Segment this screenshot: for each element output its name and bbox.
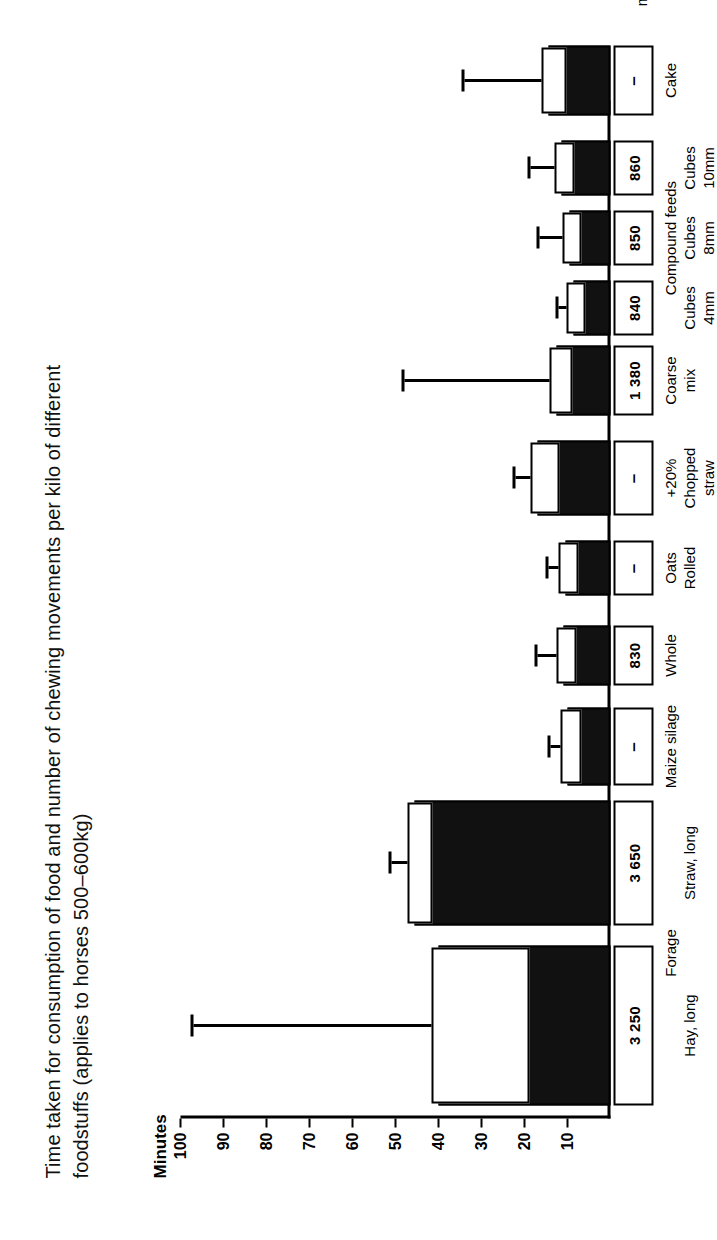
y-axis-tick bbox=[480, 1118, 482, 1127]
chewing-movement-value: 3 650 bbox=[613, 800, 653, 925]
error-whisker-cap bbox=[388, 852, 391, 874]
y-axis-tick-label: 40 bbox=[430, 1132, 446, 1150]
bar-group bbox=[180, 800, 610, 925]
error-whisker-cap bbox=[536, 227, 539, 249]
y-axis-tick-label: 50 bbox=[387, 1132, 403, 1150]
chewing-movement-value: 860 bbox=[613, 140, 653, 195]
error-whisker-cap bbox=[190, 1014, 193, 1036]
error-whisker-cap bbox=[534, 644, 537, 666]
bar-group bbox=[180, 945, 610, 1105]
range-window bbox=[558, 542, 579, 593]
y-axis-tick bbox=[308, 1118, 310, 1127]
chewing-movement-value: – bbox=[613, 440, 653, 515]
error-whisker bbox=[404, 379, 565, 382]
chewing-movement-value: 850 bbox=[613, 210, 653, 265]
bar bbox=[561, 140, 610, 195]
y-axis-tick bbox=[179, 1118, 181, 1127]
y-axis-tick-label: 80 bbox=[258, 1132, 274, 1150]
y-axis-tick bbox=[351, 1118, 353, 1127]
bar bbox=[537, 440, 610, 515]
plot-area: 100908070605040302010 bbox=[180, 100, 610, 1118]
category-label: Cake bbox=[660, 15, 679, 145]
group-label: Forage bbox=[660, 800, 679, 1105]
chewing-movement-value: – bbox=[613, 707, 653, 785]
y-axis-tick bbox=[566, 1118, 568, 1127]
bar bbox=[414, 800, 610, 925]
range-window bbox=[560, 709, 581, 783]
category-label-line: 10mm bbox=[698, 110, 717, 225]
chewing-movement-value: – bbox=[613, 45, 653, 115]
error-whisker-cap bbox=[547, 735, 550, 757]
range-window bbox=[566, 282, 584, 333]
chewing-movements-line2: movements bbox=[631, 0, 650, 27]
error-whisker-cap bbox=[461, 69, 464, 91]
y-axis-tick bbox=[265, 1118, 267, 1127]
bar-group bbox=[180, 707, 610, 785]
range-window bbox=[541, 47, 566, 113]
category-label-line: straw bbox=[698, 410, 717, 545]
y-axis-tick bbox=[523, 1118, 525, 1127]
range-window bbox=[407, 802, 432, 923]
bar bbox=[548, 45, 610, 115]
y-axis-tick bbox=[437, 1118, 439, 1127]
bar-group bbox=[180, 45, 610, 115]
y-axis-tick-label: 30 bbox=[473, 1132, 489, 1150]
y-axis-tick-label: 100 bbox=[172, 1132, 188, 1159]
bar-group bbox=[180, 440, 610, 515]
bar bbox=[565, 540, 610, 595]
bar-group bbox=[180, 345, 610, 415]
y-axis-tick-label: 60 bbox=[344, 1132, 360, 1150]
range-window bbox=[562, 212, 580, 263]
y-axis-tick-label: 70 bbox=[301, 1132, 317, 1150]
y-axis-tick-label: 20 bbox=[516, 1132, 532, 1150]
range-window bbox=[556, 627, 577, 683]
error-whisker-cap bbox=[555, 297, 558, 319]
range-window bbox=[530, 442, 559, 513]
bar-group bbox=[180, 540, 610, 595]
bar-series bbox=[180, 100, 610, 1115]
range-window bbox=[554, 142, 575, 193]
range-window bbox=[549, 347, 572, 413]
bar bbox=[569, 210, 610, 265]
category-label-line: Straw, long bbox=[679, 770, 698, 955]
error-whisker-cap bbox=[401, 369, 404, 391]
category-label-line: Cake bbox=[660, 15, 679, 145]
chewing-movement-value: 1 380 bbox=[613, 345, 653, 415]
bar bbox=[563, 625, 610, 685]
bar bbox=[438, 945, 610, 1105]
bar bbox=[573, 280, 610, 335]
y-axis-tick-label: 90 bbox=[215, 1132, 231, 1150]
category-label: Straw, long bbox=[679, 770, 698, 955]
bar bbox=[567, 707, 610, 785]
category-label-line: Cubes bbox=[679, 110, 698, 225]
bar-group bbox=[180, 625, 610, 685]
range-window bbox=[431, 947, 529, 1103]
bar bbox=[556, 345, 610, 415]
chewing-movement-value: 840 bbox=[613, 280, 653, 335]
chart-title: Time taken for consumption of food and n… bbox=[38, 278, 94, 1178]
error-whisker-cap bbox=[512, 467, 515, 489]
y-axis-tick-label: 10 bbox=[559, 1132, 575, 1150]
error-whisker-cap bbox=[545, 557, 548, 579]
error-whisker-cap bbox=[527, 157, 530, 179]
y-axis-tick bbox=[394, 1118, 396, 1127]
chewing-movement-value: – bbox=[613, 540, 653, 595]
chewing-movement-value: 3 250 bbox=[613, 945, 653, 1105]
bar-group bbox=[180, 280, 610, 335]
group-label: Compound feeds bbox=[660, 140, 679, 335]
chewing-movements-line1: Chewing bbox=[612, 0, 631, 27]
y-axis-label: Minutes bbox=[150, 1114, 170, 1178]
y-axis-tick bbox=[222, 1118, 224, 1127]
category-label: Cubes10mm bbox=[679, 110, 717, 225]
chewing-movement-value: 830 bbox=[613, 625, 653, 685]
chewing-movements-row-label: Chewingmovements bbox=[612, 0, 650, 27]
error-whisker bbox=[193, 1024, 446, 1027]
bar-group bbox=[180, 140, 610, 195]
bar-group bbox=[180, 210, 610, 265]
